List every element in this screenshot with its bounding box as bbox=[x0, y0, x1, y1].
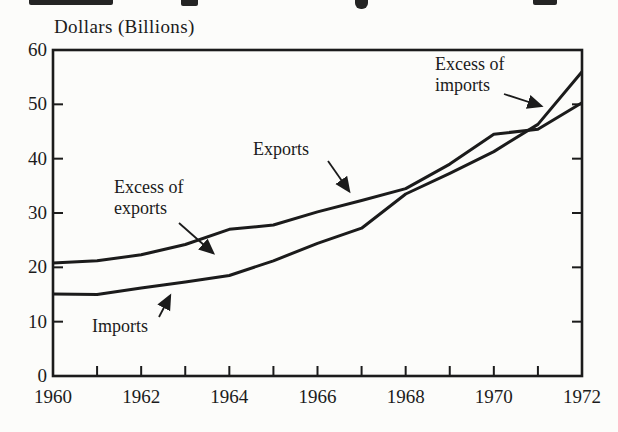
excess-of-imports-line2: imports bbox=[435, 75, 504, 96]
x-tick-label: 1962 bbox=[115, 386, 167, 408]
x-tick-label: 1960 bbox=[27, 386, 79, 408]
y-tick-label: 0 bbox=[14, 365, 47, 387]
y-tick-label: 10 bbox=[14, 311, 47, 333]
x-tick-label: 1964 bbox=[203, 386, 255, 408]
excess-of-imports-arrow bbox=[504, 94, 541, 106]
excess-of-imports-annotation: Excess of imports bbox=[435, 54, 504, 96]
imports-annotation-label: Imports bbox=[92, 316, 148, 336]
y-tick-label: 60 bbox=[14, 39, 47, 61]
x-tick-label: 1972 bbox=[556, 386, 608, 408]
exports-annotation: Exports bbox=[253, 139, 309, 160]
imports-arrow bbox=[159, 296, 170, 317]
y-tick-label: 40 bbox=[14, 148, 47, 170]
chart-canvas bbox=[0, 0, 618, 432]
scanned-chart-page: Dollars (Billions) Exports Excess of exp… bbox=[0, 0, 618, 432]
y-tick-label: 30 bbox=[14, 202, 47, 224]
y-tick-label: 50 bbox=[14, 93, 47, 115]
x-tick-label: 1966 bbox=[292, 386, 344, 408]
y-tick-label: 20 bbox=[14, 256, 47, 278]
annotation-arrows bbox=[159, 94, 541, 317]
exports-annotation-label: Exports bbox=[253, 139, 309, 159]
x-tick-label: 1968 bbox=[380, 386, 432, 408]
exports-arrow bbox=[328, 161, 349, 191]
excess-of-exports-annotation: Excess of exports bbox=[114, 177, 183, 219]
excess-of-exports-line2: exports bbox=[114, 198, 183, 219]
x-tick-label: 1970 bbox=[468, 386, 520, 408]
imports-annotation: Imports bbox=[92, 316, 148, 337]
excess-of-exports-line1: Excess of bbox=[114, 177, 183, 198]
excess-of-imports-line1: Excess of bbox=[435, 54, 504, 75]
